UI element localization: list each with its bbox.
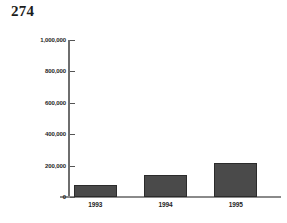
bar	[214, 163, 257, 197]
y-axis-tick-label: 200,000	[45, 163, 66, 169]
bar	[74, 185, 117, 197]
x-axis-tick-label: 1995	[229, 201, 243, 208]
bar-chart-figure: 274 0200,000400,000600,000800,0001,000,0…	[0, 0, 287, 223]
y-axis-tick-label: 1,000,000	[40, 37, 66, 43]
y-axis-tick-label: 600,000	[45, 100, 66, 106]
page-number: 274	[11, 3, 34, 20]
bar	[144, 175, 187, 197]
x-axis-tick-label: 1994	[158, 201, 172, 208]
y-axis-tick-label: 800,000	[45, 68, 66, 74]
x-axis-tick-label: 1993	[88, 201, 102, 208]
plot-area	[70, 40, 281, 197]
y-axis-tick-label: 0	[63, 194, 66, 200]
y-axis-tick	[70, 197, 75, 198]
y-axis-tick-label: 400,000	[45, 131, 66, 137]
